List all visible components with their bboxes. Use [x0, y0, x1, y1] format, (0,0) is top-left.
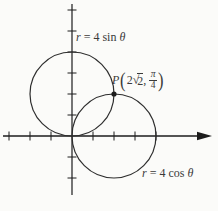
open-paren: ( — [120, 67, 125, 93]
comma: , — [143, 73, 146, 87]
cos-label-r: r — [142, 166, 147, 180]
point-name: P — [112, 73, 119, 87]
sin-label-r: r — [76, 30, 81, 44]
polar-diagram: r = 4 sin θ r = 4 cos θ P(2√2,π4) — [0, 0, 218, 211]
cos-curve-label: r = 4 cos θ — [142, 166, 193, 180]
pi-over-4-fraction: π4 — [149, 70, 157, 90]
sin-curve-label: r = 4 sin θ — [76, 30, 125, 44]
sin-label-theta: θ — [119, 30, 125, 44]
close-paren: ) — [158, 67, 163, 93]
x-axis-arrowhead-icon — [197, 132, 212, 140]
fraction-denominator: 4 — [151, 81, 156, 91]
point-p-label: P(2√2,π4) — [112, 66, 164, 94]
sin-label-mid: = 4 sin — [84, 30, 117, 44]
fraction-numerator: π — [149, 70, 157, 81]
cos-label-mid: = 4 cos — [150, 166, 185, 180]
cos-label-theta: θ — [187, 166, 193, 180]
